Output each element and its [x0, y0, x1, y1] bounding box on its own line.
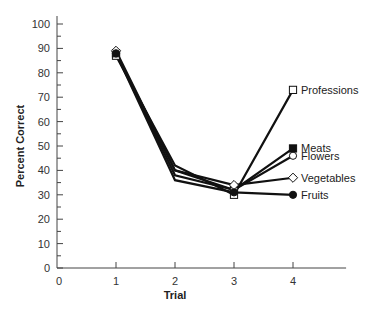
fruits-marker — [289, 191, 296, 198]
fruits-marker — [230, 189, 237, 196]
series-label-flowers: Flowers — [301, 150, 340, 162]
line-chart: 010203040506070809010001234 ProfessionsM… — [0, 0, 371, 314]
series-label-professions: Professions — [301, 84, 359, 96]
flowers-marker — [289, 152, 296, 159]
series-lines — [116, 51, 293, 195]
line-fruits — [116, 53, 293, 195]
y-tick-label: 30 — [38, 189, 50, 201]
y-tick-label: 90 — [38, 42, 50, 54]
series-label-fruits: Fruits — [301, 189, 329, 201]
meats-marker — [289, 145, 296, 152]
y-axis-title: Percent Correct — [14, 104, 26, 187]
x-tick-label: 4 — [290, 275, 296, 287]
y-tick-label: 50 — [38, 140, 50, 152]
professions-marker — [289, 86, 296, 93]
series-markers — [111, 46, 297, 198]
y-tick-label: 60 — [38, 116, 50, 128]
series-label-vegetables: Vegetables — [301, 172, 356, 184]
line-flowers — [116, 53, 293, 190]
x-tick-label: 0 — [56, 275, 62, 287]
x-tick-label: 1 — [113, 275, 119, 287]
y-tick-label: 20 — [38, 213, 50, 225]
x-axis-title: Trial — [164, 289, 187, 301]
y-tick-label: 70 — [38, 91, 50, 103]
y-tick-label: 0 — [44, 262, 50, 274]
vegetables-marker — [288, 173, 297, 182]
y-tick-label: 40 — [38, 164, 50, 176]
series-labels: ProfessionsMeatsFlowersVegetablesFruits — [301, 84, 359, 201]
x-tick-label: 2 — [172, 275, 178, 287]
y-tick-label: 10 — [38, 238, 50, 250]
line-professions — [116, 56, 293, 195]
line-vegetables — [116, 51, 293, 185]
fruits-marker — [112, 50, 119, 57]
x-tick-label: 3 — [231, 275, 237, 287]
y-tick-label: 100 — [32, 18, 50, 30]
axes: 010203040506070809010001234 — [32, 16, 346, 287]
line-meats — [116, 53, 293, 190]
y-tick-label: 80 — [38, 67, 50, 79]
